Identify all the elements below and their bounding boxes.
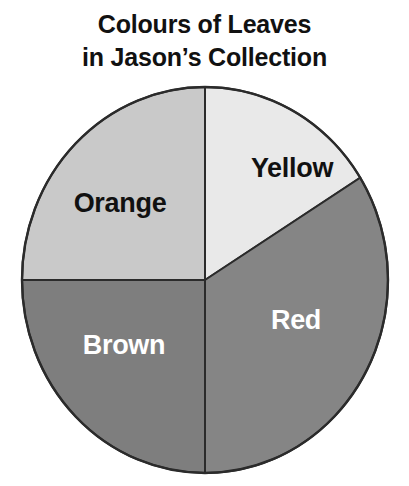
pie-slice-label-yellow: Yellow bbox=[251, 153, 335, 183]
pie-slice-group bbox=[22, 87, 388, 473]
pie-slice-orange[interactable] bbox=[22, 87, 205, 280]
pie-slice-label-red: Red bbox=[271, 305, 321, 335]
pie-chart-svg: YellowRedBrownOrange bbox=[0, 0, 409, 486]
pie-chart: YellowRedBrownOrange bbox=[0, 0, 409, 486]
pie-chart-page: Colours of Leaves in Jason’s Collection … bbox=[0, 0, 409, 486]
pie-slice-label-orange: Orange bbox=[74, 188, 167, 218]
pie-slice-brown[interactable] bbox=[22, 280, 205, 473]
pie-slice-label-brown: Brown bbox=[83, 330, 166, 360]
